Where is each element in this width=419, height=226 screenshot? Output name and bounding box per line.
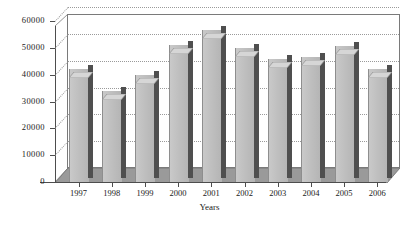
x-tick-mark [145, 183, 146, 187]
bar-side-face [154, 71, 159, 178]
bar-front-face [135, 75, 155, 182]
bar-top-face [102, 86, 126, 92]
bar-front-face [301, 57, 321, 182]
bar-front-face [268, 59, 288, 182]
bar-side-face [287, 55, 292, 178]
bar-top-face [301, 52, 325, 58]
bar-side-face [188, 41, 193, 178]
bar [268, 54, 287, 182]
bar-front-face [102, 91, 122, 182]
bar [368, 64, 387, 182]
x-tick-mark [278, 183, 279, 187]
bar [301, 52, 320, 182]
x-tick-mark [344, 183, 345, 187]
bar-top-face [202, 25, 226, 31]
bar-side-face [387, 65, 392, 178]
y-tick-label: 30000 [0, 96, 45, 106]
x-tick-mark [377, 183, 378, 187]
bar [335, 41, 354, 182]
bar-top-face [335, 41, 359, 47]
y-tick-label: 10000 [0, 149, 45, 159]
bar-front-face [335, 46, 355, 182]
gridline [68, 7, 399, 8]
bar-top-face [169, 40, 193, 46]
y-tick-label: 60000 [0, 15, 45, 25]
x-tick-mark [245, 183, 246, 187]
y-axis-line [55, 26, 56, 183]
bar [135, 70, 154, 182]
bar-side-face [88, 65, 93, 178]
bar [169, 40, 188, 182]
x-tick-mark [178, 183, 179, 187]
y-tick-label: 40000 [0, 69, 45, 79]
bar-side-face [254, 44, 259, 178]
y-tick-label: 0 [0, 176, 45, 186]
bar-front-face [202, 30, 222, 182]
x-tick-mark [112, 183, 113, 187]
y-tick-mark [50, 182, 55, 183]
bar-top-face [268, 54, 292, 60]
bar-top-face [69, 64, 93, 70]
bar-side-face [221, 26, 226, 178]
bar-side-face [320, 53, 325, 178]
bar-front-face [368, 69, 388, 182]
gridline [68, 34, 399, 35]
x-tick-mark [311, 183, 312, 187]
bar-top-face [235, 43, 259, 49]
bar-top-face [368, 64, 392, 70]
y-tick-mark [50, 128, 55, 129]
y-tick-label: 20000 [0, 122, 45, 132]
y-tick-label: 50000 [0, 42, 45, 52]
x-tick-mark [211, 183, 212, 187]
x-axis-title: Years [0, 202, 419, 212]
bar-front-face [235, 48, 255, 182]
bar-side-face [121, 87, 126, 178]
bar [202, 25, 221, 182]
x-axis-line [40, 182, 386, 183]
y-tick-mark [50, 102, 55, 103]
bar-top-face [135, 70, 159, 76]
y-tick-mark [50, 155, 55, 156]
bar-chart: 0100002000030000400005000060000 19971998… [0, 0, 419, 226]
bar-side-face [354, 42, 359, 178]
bar [69, 64, 88, 182]
y-tick-mark [50, 21, 55, 22]
bar [102, 86, 121, 182]
x-tick-label: 2006 [357, 188, 397, 198]
bar-front-face [169, 45, 189, 182]
bar-front-face [69, 69, 89, 182]
plot-area: 0100002000030000400005000060000 19971998… [0, 0, 419, 226]
x-tick-mark [79, 183, 80, 187]
y-tick-mark [50, 48, 55, 49]
bar [235, 43, 254, 182]
y-tick-mark [50, 75, 55, 76]
